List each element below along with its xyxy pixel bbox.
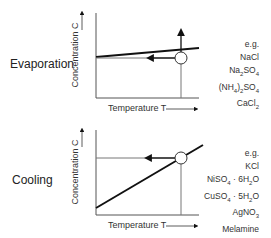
x-axis-label: Temperature T (108, 103, 166, 113)
example-item: CaCl2 (219, 97, 259, 114)
example-item: Melamine (204, 223, 259, 236)
examples-header: e.g. (219, 38, 259, 51)
example-item: NaCl (219, 51, 259, 64)
evaporation-examples: e.g. NaCl Na2SO4 (NH4)2SO4 CaCl2 (219, 38, 259, 114)
cooling-chart (82, 130, 203, 226)
x-axis-label: Temperature T (108, 220, 166, 230)
example-item: KCl (204, 160, 259, 173)
example-item: NiSO4 · 6H2O (204, 173, 259, 190)
examples-header: e.g. (204, 147, 259, 160)
y-axis-label: Concentration C (70, 139, 80, 204)
operating-point (175, 52, 187, 64)
cooling-title: Cooling (12, 173, 53, 187)
evaporation-chart (82, 13, 199, 109)
example-item: CuSO4 · 5H2O (204, 190, 259, 207)
solubility-curve (96, 145, 203, 208)
evaporation-title: Evaporation (10, 57, 74, 71)
operating-point (175, 152, 187, 164)
example-item: Na2SO4 (219, 64, 259, 81)
example-item: (NH4)2SO4 (219, 81, 259, 98)
y-axis-label: Concentration C (70, 22, 80, 87)
cooling-examples: e.g. KCl NiSO4 · 6H2O CuSO4 · 5H2O AgNO3… (204, 147, 259, 236)
example-item: AgNO3 (204, 206, 259, 223)
